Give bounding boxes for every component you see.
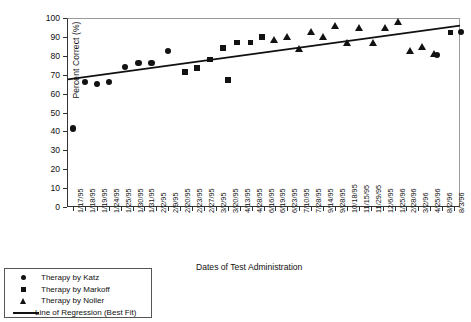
scatter-chart: Percent Correct (%) 01020304050607080901… — [0, 0, 471, 322]
regression-line — [0, 0, 471, 322]
